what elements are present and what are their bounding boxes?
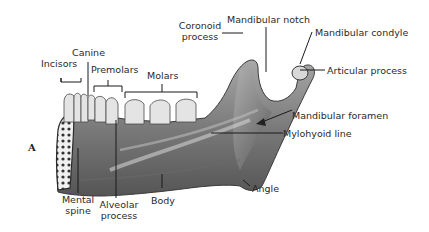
label-mental-spine-line2: spine <box>56 205 100 216</box>
label-mandibular-notch: Mandibular notch <box>227 14 310 25</box>
label-mylohyoid-line: Mylohyoid line <box>283 128 352 139</box>
label-coronoid-process: Coronoid process <box>175 20 225 42</box>
label-articular-process: Articular process <box>327 65 407 76</box>
label-mental-spine: Mental spine <box>56 194 100 216</box>
mandible-diagram: A Incisors Canine Premolars Molars Coron… <box>0 0 429 232</box>
figure-letter: A <box>28 142 36 153</box>
label-mental-spine-line1: Mental <box>56 194 100 205</box>
label-mandibular-foramen: Mandibular foramen <box>292 110 388 121</box>
label-alveolar-line2: process <box>96 210 142 221</box>
label-molars: Molars <box>147 70 178 81</box>
label-coronoid-line2: process <box>175 31 225 42</box>
teeth <box>64 93 196 124</box>
label-alveolar-line1: Alveolar <box>96 199 142 210</box>
label-angle: Angle <box>252 183 279 194</box>
label-body: Body <box>151 195 175 206</box>
label-incisors: Incisors <box>41 58 77 69</box>
label-premolars: Premolars <box>91 64 139 75</box>
label-alveolar-process: Alveolar process <box>96 199 142 221</box>
label-mandibular-condyle: Mandibular condyle <box>315 27 408 38</box>
mandible-bone <box>57 60 315 196</box>
label-canine: Canine <box>72 47 105 58</box>
label-coronoid-line1: Coronoid <box>175 20 225 31</box>
